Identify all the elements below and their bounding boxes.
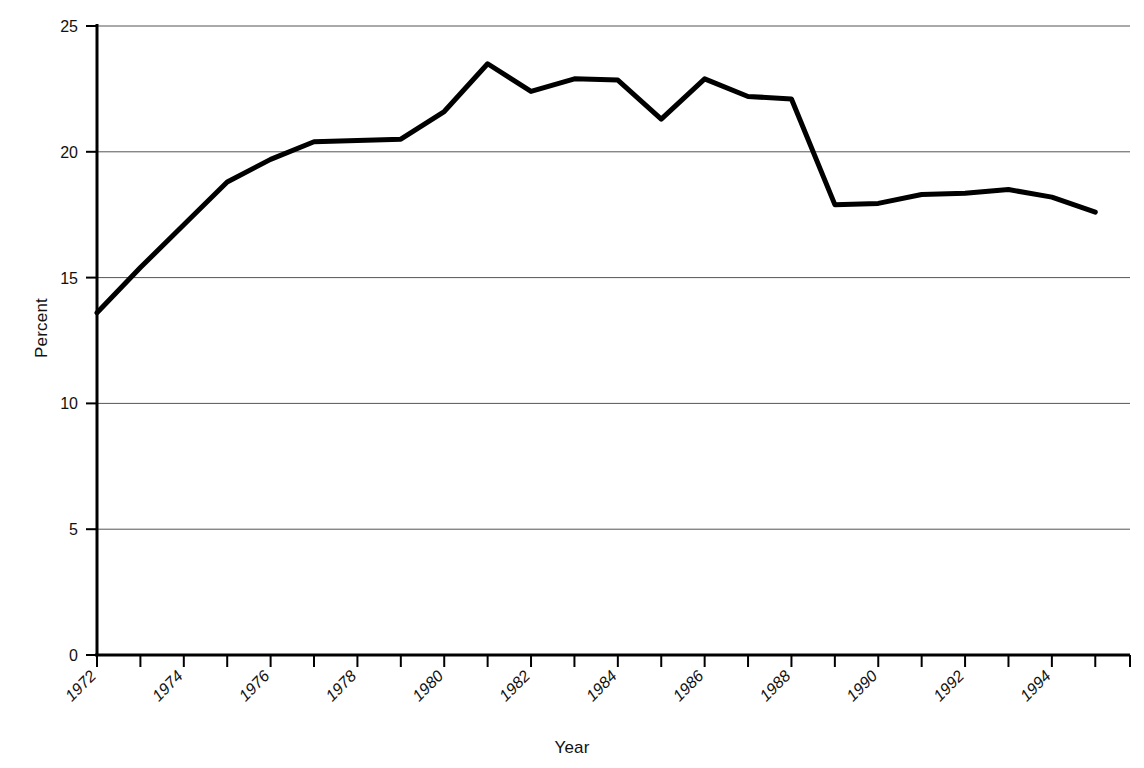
y-tick-label: 10 xyxy=(60,395,78,412)
y-tick-labels: 0510152025 xyxy=(60,18,78,664)
x-tick-labels: 1972197419761978198019821984198619881990… xyxy=(62,667,1054,704)
x-tick-label: 1992 xyxy=(930,667,967,704)
x-tick-label: 1980 xyxy=(409,667,446,704)
x-tick-label: 1976 xyxy=(236,667,273,704)
y-axis xyxy=(86,24,97,655)
y-tick-label: 15 xyxy=(60,270,78,287)
gridlines xyxy=(97,26,1130,655)
x-tick-label: 1990 xyxy=(843,667,880,704)
x-tick-label: 1974 xyxy=(149,667,186,704)
chart-canvas: 0510152025 19721974197619781980198219841… xyxy=(0,0,1144,768)
x-tick-label: 1988 xyxy=(756,667,793,704)
y-tick-label: 20 xyxy=(60,144,78,161)
series-line xyxy=(97,64,1095,313)
x-axis xyxy=(95,655,1130,667)
x-tick-label: 1972 xyxy=(62,667,99,704)
y-axis-title: Percent xyxy=(32,268,52,388)
y-tick-label: 25 xyxy=(60,18,78,35)
x-tick-label: 1978 xyxy=(322,667,359,704)
x-tick-label: 1986 xyxy=(670,667,707,704)
data-series xyxy=(97,64,1095,313)
y-tick-label: 5 xyxy=(69,521,78,538)
x-tick-label: 1982 xyxy=(496,667,533,704)
x-tick-label: 1984 xyxy=(583,667,620,704)
x-tick-label: 1994 xyxy=(1017,667,1054,704)
x-axis-title: Year xyxy=(0,738,1144,758)
line-chart: 0510152025 19721974197619781980198219841… xyxy=(0,0,1144,768)
y-tick-label: 0 xyxy=(69,647,78,664)
